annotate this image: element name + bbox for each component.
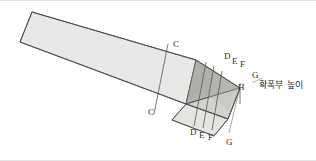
label-section-d-top: D [224,52,231,61]
label-section-c-bottom: C [148,108,154,117]
label-widening-height-annotation: 확폭부 높이 [259,81,303,90]
label-section-g-bottom: G [226,138,233,147]
label-section-g-top: G [252,71,259,80]
label-section-e-bottom: E [199,131,205,140]
label-section-e-top: E [232,57,238,66]
label-section-d-bottom: D [190,128,197,137]
label-section-f-bottom: F [208,133,213,142]
label-height-marker: H [238,83,245,92]
label-section-c-top: C [173,40,179,49]
label-section-f-top: F [240,60,245,69]
widening-section-diagram: C C D E F G D E F G H 확폭부 높이 [0,0,316,161]
